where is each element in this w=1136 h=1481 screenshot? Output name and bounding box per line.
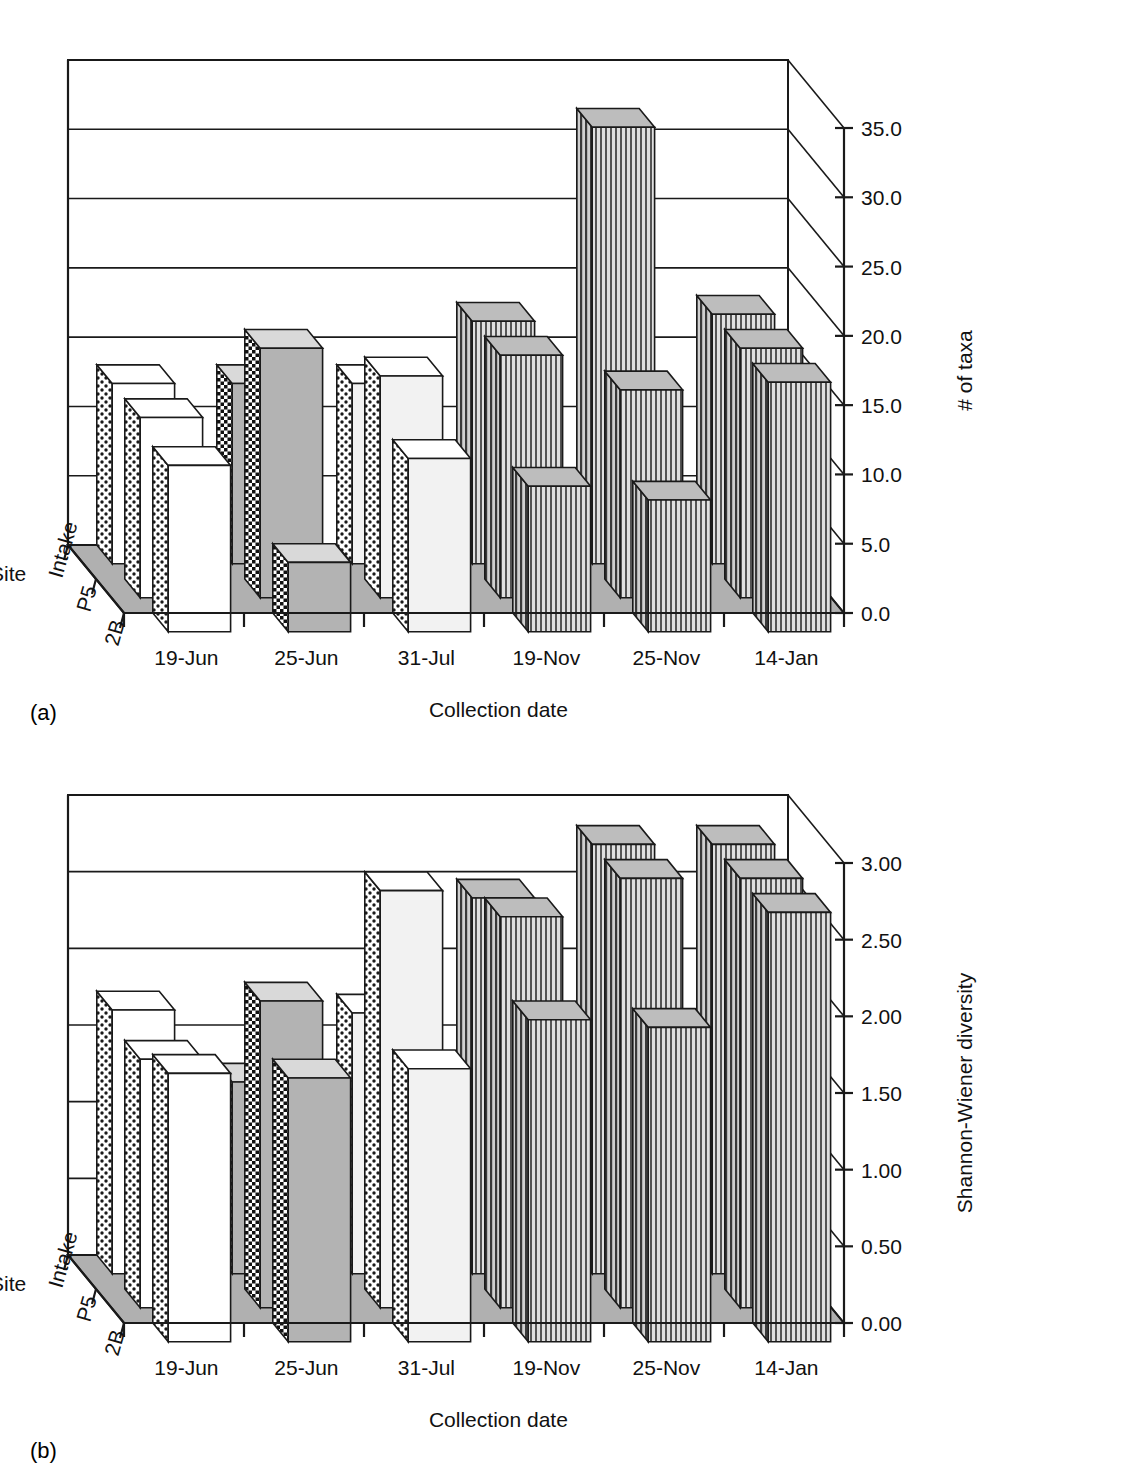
bar-side-face xyxy=(513,468,528,632)
bar-side-face xyxy=(245,982,260,1307)
site-axis-title: Site xyxy=(0,562,26,585)
bar-side-face xyxy=(513,1001,528,1342)
bar-front-face xyxy=(168,1073,230,1341)
bar-side-face xyxy=(273,1059,288,1341)
chart-panel-diversity: 0.000.501.001.502.002.503.00Shannon-Wien… xyxy=(0,755,1136,1481)
bar-front-face xyxy=(288,1078,350,1342)
bar-3d xyxy=(633,481,711,631)
bar-3d xyxy=(153,447,231,632)
bar-side-face xyxy=(365,357,380,597)
site-axis-title: Site xyxy=(0,1272,26,1295)
bar-side-face xyxy=(245,330,260,598)
bar-side-face xyxy=(125,399,140,598)
category-label: 19-Nov xyxy=(513,646,581,669)
value-axis: 0.05.010.015.020.025.030.035.0# of taxa xyxy=(835,117,976,625)
value-axis-tick-label: 3.00 xyxy=(861,852,902,875)
category-label: 19-Nov xyxy=(513,1356,581,1379)
bar-side-face xyxy=(605,860,620,1308)
value-axis-tick-label: 30.0 xyxy=(861,186,902,209)
category-label: 25-Nov xyxy=(633,1356,701,1379)
bar-side-face xyxy=(153,1055,168,1342)
bar-3d xyxy=(513,1001,591,1342)
bar-side-face xyxy=(365,872,380,1308)
bar-front-face xyxy=(528,486,590,632)
value-axis-tick-label: 0.50 xyxy=(861,1235,902,1258)
category-label: 25-Jun xyxy=(274,646,338,669)
category-label: 19-Jun xyxy=(154,646,218,669)
bar-3d xyxy=(633,1009,711,1342)
diversity-3d-bar-chart: 0.000.501.001.502.002.503.00Shannon-Wien… xyxy=(0,755,1136,1481)
bar-3d xyxy=(513,468,591,632)
site-label: P5 xyxy=(72,1293,101,1324)
value-axis-title: Shannon-Wiener diversity xyxy=(953,972,976,1213)
bar-side-face xyxy=(393,440,408,632)
bar-front-face xyxy=(528,1020,590,1342)
bar-side-face xyxy=(97,991,112,1273)
value-axis-tick-label: 15.0 xyxy=(861,394,902,417)
bar-front-face xyxy=(648,1027,710,1341)
bar-side-face xyxy=(753,894,768,1342)
bar-3d xyxy=(273,1059,351,1341)
value-axis-tick-label: 1.50 xyxy=(861,1082,902,1105)
bar-front-face xyxy=(408,1069,470,1342)
bar-side-face xyxy=(97,365,112,564)
bar-3d xyxy=(153,1055,231,1342)
bar-front-face xyxy=(408,458,470,631)
bar-3d xyxy=(753,364,831,632)
bar-front-face xyxy=(768,912,830,1341)
value-axis-tick-label: 10.0 xyxy=(861,463,902,486)
value-axis-title: # of taxa xyxy=(953,330,976,411)
value-axis-tick-label: 25.0 xyxy=(861,256,902,279)
value-axis-tick-label: 5.0 xyxy=(861,533,890,556)
site-label: P5 xyxy=(72,583,101,614)
bar-3d xyxy=(393,1050,471,1342)
gridline-right-wall xyxy=(788,129,844,197)
gridline-right-wall xyxy=(788,268,844,336)
bar-side-face xyxy=(725,330,740,598)
value-axis-tick-label: 20.0 xyxy=(861,325,902,348)
category-label: 19-Jun xyxy=(154,1356,218,1379)
bar-side-face xyxy=(153,447,168,632)
category-label: 14-Jan xyxy=(754,646,818,669)
bar-side-face xyxy=(485,337,500,598)
value-axis-tick-label: 2.00 xyxy=(861,1005,902,1028)
bar-3d xyxy=(393,440,471,632)
category-label: 31-Jul xyxy=(398,646,455,669)
bar-front-face xyxy=(168,465,230,631)
bar-side-face xyxy=(337,365,352,564)
bar-side-face xyxy=(485,898,500,1308)
category-axis-title: Collection date xyxy=(429,1408,568,1431)
bar-side-face xyxy=(633,481,648,631)
category-label: 14-Jan xyxy=(754,1356,818,1379)
panel-b-tag: (b) xyxy=(30,1438,57,1464)
category-label: 25-Nov xyxy=(633,646,701,669)
value-axis-tick-label: 2.50 xyxy=(861,929,902,952)
value-axis: 0.000.501.001.502.002.503.00Shannon-Wien… xyxy=(835,852,976,1335)
value-axis-tick-label: 0.0 xyxy=(861,602,890,625)
bar-front-face xyxy=(288,562,350,631)
value-axis-tick-label: 35.0 xyxy=(861,117,902,140)
bar-side-face xyxy=(725,860,740,1308)
bar-3d xyxy=(273,544,351,632)
gridline-right-wall xyxy=(788,795,844,863)
chart-panel-taxa: 0.05.010.015.020.025.030.035.0# of taxa1… xyxy=(0,0,1136,755)
category-axis: 19-Jun25-Jun31-Jul19-Nov25-Nov14-JanColl… xyxy=(124,613,844,721)
bar-3d xyxy=(753,894,831,1342)
bar-side-face xyxy=(605,371,620,598)
taxa-3d-bar-chart: 0.05.010.015.020.025.030.035.0# of taxa1… xyxy=(0,0,1136,755)
gridline-right-wall xyxy=(788,199,844,267)
category-axis-title: Collection date xyxy=(429,698,568,721)
bar-side-face xyxy=(125,1041,140,1308)
bar-side-face xyxy=(753,364,768,632)
bar-side-face xyxy=(393,1050,408,1342)
value-axis-tick-label: 1.00 xyxy=(861,1159,902,1182)
category-label: 31-Jul xyxy=(398,1356,455,1379)
category-axis: 19-Jun25-Jun31-Jul19-Nov25-Nov14-JanColl… xyxy=(124,1323,844,1431)
gridline-right-wall xyxy=(788,60,844,128)
value-axis-tick-label: 0.00 xyxy=(861,1312,902,1335)
bar-front-face xyxy=(768,382,830,631)
bar-side-face xyxy=(633,1009,648,1342)
category-label: 25-Jun xyxy=(274,1356,338,1379)
panel-a-tag: (a) xyxy=(30,700,57,726)
